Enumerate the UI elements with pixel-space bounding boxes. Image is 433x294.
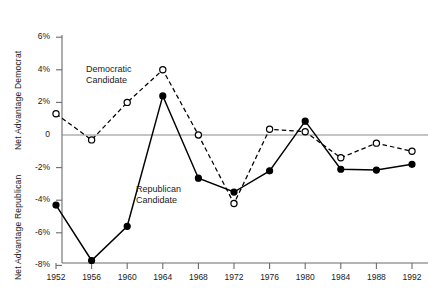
data-point: [231, 200, 237, 206]
y-tick-label: -2%: [22, 162, 50, 172]
series-line-democratic-candidate: [56, 70, 412, 204]
annotation-republican-candidate: Republican Candidate: [136, 184, 181, 206]
data-point: [373, 167, 379, 173]
data-point: [160, 93, 166, 99]
data-point: [338, 155, 344, 161]
x-tick-label: 1980: [288, 272, 322, 282]
x-tick-label: 1964: [146, 272, 180, 282]
x-tick-label: 1992: [395, 272, 429, 282]
y-tick-label: 4%: [22, 64, 50, 74]
annotation-democratic-line2: Candidate: [86, 75, 132, 86]
series-layer: [53, 67, 415, 264]
y-tick-label: 0: [22, 129, 50, 139]
data-point: [409, 161, 415, 167]
data-point: [267, 126, 273, 132]
y-tick-label: -4%: [22, 194, 50, 204]
data-point: [53, 111, 59, 117]
y-tick-label: -6%: [22, 227, 50, 237]
data-point: [231, 189, 237, 195]
data-point: [338, 166, 344, 172]
data-point: [195, 132, 201, 138]
data-point: [89, 258, 95, 264]
x-tick-label: 1976: [253, 272, 287, 282]
data-point: [373, 140, 379, 146]
data-point: [160, 67, 166, 73]
y-tick-label: -8%: [22, 259, 50, 269]
data-point: [302, 118, 308, 124]
x-tick-marks: [56, 263, 412, 269]
annotation-republican-line2: Candidate: [136, 195, 181, 206]
data-point: [124, 99, 130, 105]
data-point: [195, 175, 201, 181]
data-point: [89, 137, 95, 143]
data-point: [53, 202, 59, 208]
y-tick-marks: [56, 37, 62, 265]
annotation-democratic-line1: Democratic: [86, 64, 132, 75]
x-tick-label: 1960: [110, 272, 144, 282]
x-tick-label: 1952: [39, 272, 73, 282]
plot-area: [0, 0, 433, 294]
x-tick-label: 1972: [217, 272, 251, 282]
annotation-democratic-candidate: Democratic Candidate: [86, 64, 132, 86]
y-tick-label: 6%: [22, 31, 50, 41]
net-advantage-chart: Net Advantage Democrat Net Advantage Rep…: [0, 0, 433, 294]
data-point: [267, 168, 273, 174]
data-point: [302, 129, 308, 135]
x-tick-label: 1956: [75, 272, 109, 282]
x-tick-label: 1968: [181, 272, 215, 282]
annotation-republican-line1: Republican: [136, 184, 181, 195]
data-point: [124, 223, 130, 229]
x-tick-label: 1988: [359, 272, 393, 282]
data-point: [409, 148, 415, 154]
x-tick-label: 1984: [324, 272, 358, 282]
y-tick-label: 2%: [22, 96, 50, 106]
